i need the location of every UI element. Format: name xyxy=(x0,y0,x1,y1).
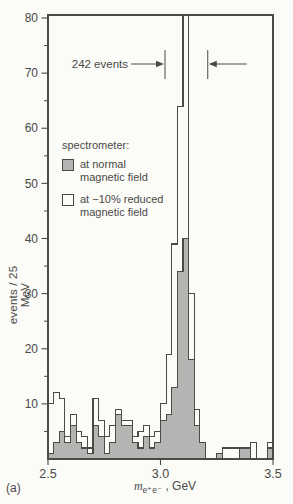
y-tick-label: 80 xyxy=(25,11,39,25)
x-tick-label: 2.5 xyxy=(39,467,56,481)
panel-label: (a) xyxy=(6,481,21,495)
x-axis-title-subscript: e⁺e⁻ xyxy=(143,485,162,495)
x-axis-title-symbol: m xyxy=(134,479,143,493)
y-tick-label: 20 xyxy=(25,342,39,356)
x-axis-title-unit: , GeV xyxy=(162,479,196,493)
filled-swatch-icon xyxy=(62,159,74,171)
y-tick-label: 40 xyxy=(25,232,39,246)
y-tick-label: 10 xyxy=(25,397,39,411)
x-axis-title: me⁺e⁻ , GeV xyxy=(110,479,220,495)
legend-item-normal-field: at normal magnetic field xyxy=(62,158,163,184)
legend-title: spectrometer: xyxy=(62,139,163,152)
legend-label-normal-field: at normal magnetic field xyxy=(80,158,148,184)
y-axis-ticks: 1020304050607080 xyxy=(25,11,48,431)
y-tick-label: 50 xyxy=(25,177,39,191)
y-axis-title: events / 25 MeV xyxy=(7,252,21,338)
right-arrowhead-icon xyxy=(156,61,164,67)
x-tick-label: 3.5 xyxy=(264,467,281,481)
legend: spectrometer: at normal magnetic field a… xyxy=(62,139,163,228)
events-annotation: 242 events xyxy=(72,50,247,79)
histogram-figure: 10203040506070802.53.03.5242 events even… xyxy=(0,0,293,504)
open-swatch-icon xyxy=(62,194,74,206)
plot-frame xyxy=(48,15,273,459)
events-annotation-text: 242 events xyxy=(72,58,129,70)
y-tick-label: 70 xyxy=(25,66,39,80)
legend-item-reduced-field: at −10% reduced magnetic field xyxy=(62,193,163,219)
legend-label-reduced-field: at −10% reduced magnetic field xyxy=(80,193,163,219)
y-tick-label: 60 xyxy=(25,121,39,135)
x-axis-ticks: 2.53.03.5 xyxy=(39,459,281,481)
plot-svg: 10203040506070802.53.03.5242 events xyxy=(0,0,293,504)
